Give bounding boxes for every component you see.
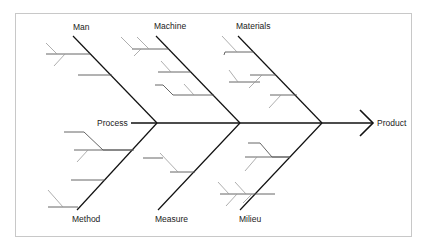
spine-label-process: Process: [97, 118, 128, 128]
category-label-materials: Materials: [236, 21, 270, 31]
bone-method: [77, 123, 157, 210]
category-label-method: Method: [72, 214, 100, 224]
fishbone-diagram: [0, 0, 442, 251]
sub-bones-measure: [143, 158, 195, 172]
effect-label-product: Product: [377, 118, 406, 128]
bone-materials: [238, 36, 322, 123]
bone-measure: [158, 123, 240, 210]
category-label-measure: Measure: [155, 214, 188, 224]
sub-bones-machine: [132, 49, 214, 95]
sub-bones-method: [48, 132, 134, 207]
category-label-machine: Machine: [154, 21, 186, 31]
category-label-man: Man: [73, 22, 90, 32]
spine: [131, 110, 373, 136]
category-label-milieu: Milieu: [239, 214, 261, 224]
bone-milieu: [240, 123, 322, 210]
